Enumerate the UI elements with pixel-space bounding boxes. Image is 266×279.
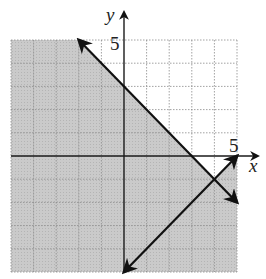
x-tick-label-5: 5 xyxy=(229,135,239,156)
x-axis-label: x xyxy=(248,155,258,176)
y-tick-label-5: 5 xyxy=(110,33,120,54)
y-axis-label: y xyxy=(104,4,115,25)
inequality-graph: y 5 5 x xyxy=(0,0,266,279)
